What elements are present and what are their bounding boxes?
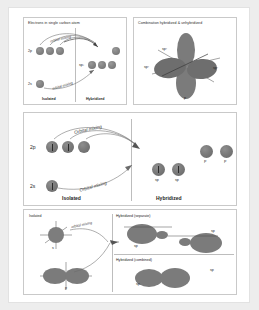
sec3-header-hybridized-separate: Hybridized (separate) [116,214,150,218]
sec2-mixing-arrows [24,113,238,207]
sec3-label-sp-sep-2: sp [211,229,215,233]
sec3-orbital-shapes [24,210,238,296]
section-sp-shapes: Isolated [23,209,237,295]
sp2-orbital-diagram [134,18,238,106]
panel-electrons-single-carbon: Electrons in single carbon atom 2p 2s sp… [23,17,127,105]
sec3-label-sp-sep-1: sp [134,244,138,248]
mixing-arrows-top-left [24,18,128,106]
sec3-header-hybridized-combined: Hybridized (combined) [116,258,152,262]
label-p-bottom: p [184,96,186,100]
section-sp-hybridization: 2p 2s sp sp P P [23,112,237,206]
sec2-footer-hybridized: Hybridized [156,195,182,201]
label-sp2-upper-left: sp² [162,47,167,51]
figure-card: Electrons in single carbon atom 2p 2s sp… [9,8,249,302]
figure-canvas: Electrons in single carbon atom 2p 2s sp… [0,0,259,310]
section-orbital-overview: Electrons in single carbon atom 2p 2s sp… [9,8,249,109]
sec3-label-p: p [65,286,67,290]
panel-combination-hybridized: Combination hybridized & unhybridized sp… [133,17,237,105]
footer-hybridized: Hybridized [86,97,104,101]
sec3-label-sp-comb-1: sp [136,282,140,286]
sec3-label-sp-comb-2: sp [210,268,214,272]
label-sp2-right: sp² [213,66,218,70]
footer-isolated: Isolated [42,97,56,101]
sec3-label-s: s [52,246,54,250]
sec2-footer-isolated: Isolated [62,195,81,201]
label-sp2-left: sp² [144,65,149,69]
